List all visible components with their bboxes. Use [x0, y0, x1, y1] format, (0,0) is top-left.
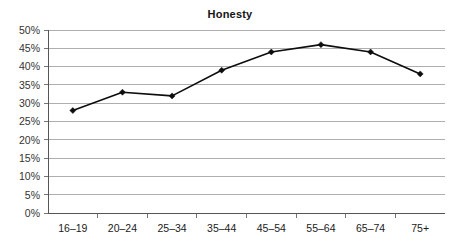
data-point-marker — [318, 42, 324, 48]
x-axis-tick-label: 35–44 — [207, 222, 236, 234]
data-point-marker — [368, 49, 374, 55]
data-point-marker — [268, 49, 274, 55]
y-axis-tick-label: 15% — [19, 152, 40, 164]
x-axis-tick-label: 75+ — [411, 222, 429, 234]
x-axis-tick-label: 65–74 — [356, 222, 385, 234]
x-axis-tick-marks — [98, 213, 396, 218]
y-axis-tick-label: 0% — [25, 207, 40, 219]
y-axis-tick-label: 40% — [19, 60, 40, 72]
x-axis-tick-label: 55–64 — [306, 222, 335, 234]
data-point-marker — [70, 108, 76, 114]
y-axis-tick-label: 30% — [19, 97, 40, 109]
line-chart-plot: 0%5%10%15%20%25%30%35%40%45%50% 16–1920–… — [0, 0, 460, 246]
chart-container: Honesty 0%5%10%15%20%25%30%35%40%45%50% … — [0, 0, 460, 246]
data-point-marker — [219, 67, 225, 73]
y-axis-tick-label: 5% — [25, 189, 40, 201]
x-axis-tick-label: 45–54 — [257, 222, 286, 234]
data-point-marker — [417, 71, 423, 77]
x-axis-tick-label: 16–19 — [58, 222, 87, 234]
y-axis-tick-labels: 0%5%10%15%20%25%30%35%40%45%50% — [19, 24, 40, 219]
y-axis-tick-label: 35% — [19, 79, 40, 91]
y-axis-tick-label: 20% — [19, 134, 40, 146]
x-axis-tick-label: 25–34 — [157, 222, 186, 234]
y-axis-tick-label: 45% — [19, 42, 40, 54]
data-point-marker — [169, 93, 175, 99]
x-axis-tick-label: 20–24 — [108, 222, 137, 234]
series-line-honesty — [73, 45, 420, 111]
y-axis-tick-label: 10% — [19, 170, 40, 182]
y-axis-tick-label: 50% — [19, 24, 40, 36]
y-axis-tick-label: 25% — [19, 115, 40, 127]
series-markers-group — [70, 42, 423, 114]
data-point-marker — [119, 89, 125, 95]
x-axis-tick-labels: 16–1920–2425–3435–4445–5455–6465–7475+ — [58, 222, 429, 234]
